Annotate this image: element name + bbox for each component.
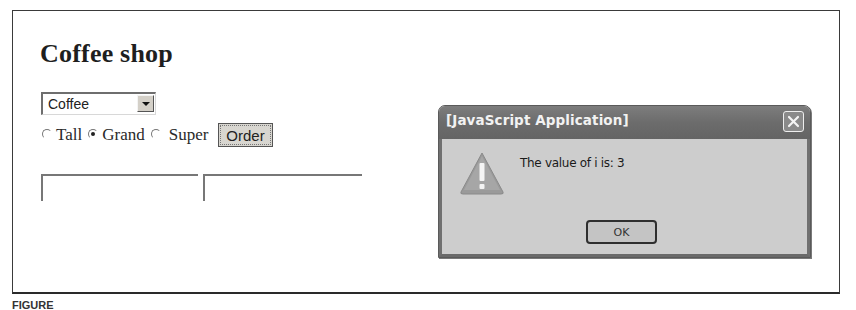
- radio-grand[interactable]: [88, 129, 98, 139]
- alert-body: The value of i is: 3 OK: [439, 139, 810, 257]
- text-field-2[interactable]: [203, 174, 362, 201]
- radio-tall[interactable]: [42, 129, 52, 139]
- alert-titlebar[interactable]: [JavaScript Application]: [439, 106, 810, 139]
- radio-label-grand[interactable]: Grand: [102, 125, 144, 145]
- alert-dialog: [JavaScript Application] The value of i …: [438, 105, 811, 258]
- radio-label-tall[interactable]: Tall: [56, 125, 82, 145]
- drink-select[interactable]: Coffee: [41, 92, 156, 115]
- close-button[interactable]: [783, 111, 804, 132]
- chevron-down-icon[interactable]: [137, 95, 154, 112]
- alert-message: The value of i is: 3: [520, 156, 624, 170]
- text-field-1[interactable]: [41, 174, 198, 201]
- warning-icon: [458, 150, 506, 196]
- ok-button[interactable]: OK: [586, 220, 657, 244]
- radio-super[interactable]: [151, 129, 161, 139]
- size-radio-group: Tall Grand Super Order: [42, 122, 273, 148]
- close-icon: [787, 115, 800, 128]
- drink-select-value: Coffee: [48, 96, 89, 112]
- radio-label-super[interactable]: Super: [169, 125, 209, 145]
- figure-caption: FIGURE: [12, 299, 54, 310]
- order-button[interactable]: Order: [218, 123, 272, 147]
- alert-title: [JavaScript Application]: [446, 112, 629, 128]
- page-title: Coffee shop: [40, 39, 173, 69]
